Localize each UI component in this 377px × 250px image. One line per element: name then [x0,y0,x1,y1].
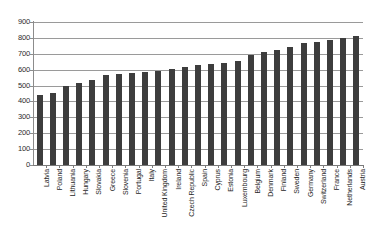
bar [50,93,56,165]
y-axis-tick-label: 500 [4,82,30,90]
y-axis-tick-label: 700 [4,50,30,58]
x-axis-tick-label: United Kingdom [161,169,168,217]
bar [76,83,82,165]
x-axis-tick [218,165,219,168]
x-axis-tick-label: Austria [359,169,366,190]
x-axis-tick [323,165,324,168]
x-axis-tick-label: Slovenia [122,169,129,195]
bar [155,71,161,165]
x-axis-tick [112,165,113,168]
x-axis-tick [178,165,179,168]
x-axis-tick [99,165,100,168]
bars-layer [33,22,363,165]
bar [274,50,280,165]
x-axis-tick-label: Czech Republic [188,169,195,217]
y-axis-tick-label: 300 [4,113,30,121]
y-axis-tick [30,165,33,166]
x-axis-tick [139,165,140,168]
x-axis-tick [231,165,232,168]
y-axis-tick [30,70,33,71]
x-axis-tick-label: Portugal [135,169,142,194]
bar [248,55,254,165]
bar [37,95,43,165]
bar [340,38,346,165]
x-axis-tick [350,165,351,168]
y-axis-tick-label: 400 [4,97,30,105]
y-axis-tick-label: 100 [4,145,30,153]
y-axis-tick [30,133,33,134]
x-axis-tick [310,165,311,168]
x-axis-tick [46,165,47,168]
y-axis-tick [30,101,33,102]
x-axis-tick-label: France [333,169,340,190]
x-axis-tick-label: Switzerland [320,169,327,204]
x-axis-tick-label: Lithuania [69,169,76,197]
x-axis-tick-label: Finland [280,169,287,191]
x-axis-tick [337,165,338,168]
x-axis-tick [297,165,298,168]
y-axis-tick [30,22,33,23]
x-axis-tick-label: Latvia [43,169,50,187]
x-axis-tick-label: Luxembourg [241,169,248,207]
x-axis-tick [152,165,153,168]
bar [169,69,175,165]
y-axis-tick-label: 800 [4,34,30,42]
x-axis-tick [191,165,192,168]
bar [301,43,307,165]
y-axis-tick [30,38,33,39]
bar [182,67,188,166]
bar [63,86,69,165]
x-axis-tick [59,165,60,168]
bar [221,63,227,165]
x-axis-tick [284,165,285,168]
y-axis-tick-label: 600 [4,66,30,74]
bar [287,47,293,165]
x-axis-tick [205,165,206,168]
bar [261,52,267,165]
x-axis-tick [363,165,364,168]
x-axis-tick-label: Sweden [293,169,300,194]
x-axis-tick-label: Spain [201,169,208,186]
x-axis-tick-label: Germany [307,169,314,197]
bar [142,72,148,165]
bar-chart: 0100200300400500600700800900 LatviaPolan… [0,0,377,250]
y-axis-tick [30,117,33,118]
x-axis-tick [125,165,126,168]
x-axis-tick-label: Belgium [254,169,261,194]
x-axis-tick-label: Netherlands [346,169,353,206]
y-axis-tick [30,86,33,87]
x-axis-tick-label: Estonia [227,169,234,192]
x-axis-tick [86,165,87,168]
x-axis-tick-label: Greece [109,169,116,191]
bar [208,64,214,165]
y-axis-tick-label: 200 [4,129,30,137]
x-axis-tick-label: Denmark [267,169,274,197]
bar [327,40,333,165]
x-axis-tick-label: Italy [148,169,155,181]
x-axis-tick [165,165,166,168]
x-axis-tick-label: Cyprus [214,169,221,191]
bar [353,36,359,165]
x-axis-tick-label: Hungary [82,169,89,195]
x-axis-tick-label: Poland [56,169,63,190]
bar [235,61,241,165]
x-axis-tick [244,165,245,168]
x-axis-tick-label: Slovakia [95,169,102,195]
x-axis-labels: LatviaPolandLithuaniaHungarySlovakiaGree… [33,169,363,249]
x-axis-tick-label: Ireland [175,169,182,190]
y-axis-tick-label: 900 [4,18,30,26]
bar [116,74,122,165]
x-axis-tick [271,165,272,168]
y-axis-tick [30,149,33,150]
bar [314,42,320,165]
y-axis-labels: 0100200300400500600700800900 [0,0,30,250]
bar [129,73,135,165]
y-axis-tick-label: 0 [4,161,30,169]
bar [195,65,201,165]
bar [89,80,95,165]
y-axis-tick [30,54,33,55]
bar [103,75,109,165]
x-axis-tick [257,165,258,168]
